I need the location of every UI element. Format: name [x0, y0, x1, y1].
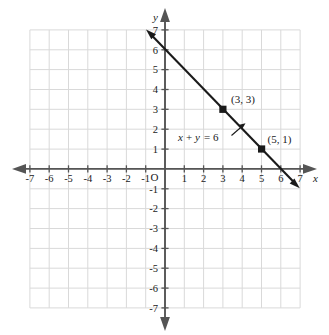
y-tick-label: -4 — [149, 243, 158, 254]
equation-var-y: y — [194, 131, 200, 143]
coordinate-plane-figure: -7 -6 -5 -4 -3 -2 -1 1 2 3 4 5 6 7 7 6 5… — [0, 0, 329, 335]
y-tick-label: -2 — [149, 203, 158, 214]
x-tick-label: 6 — [278, 173, 283, 184]
x-tick-label: 7 — [297, 173, 302, 184]
x-tick-label: -3 — [103, 173, 112, 184]
y-tick-label: 3 — [153, 104, 158, 115]
x-tick-label: -5 — [64, 173, 73, 184]
equation-equals-six: = 6 — [204, 131, 219, 143]
x-tick-label: -2 — [122, 173, 131, 184]
y-tick-label: 4 — [153, 84, 159, 95]
y-tick-label: 2 — [153, 124, 158, 135]
x-axis-left-arrow — [12, 164, 26, 174]
y-axis-label: y — [152, 11, 158, 23]
equation-label: x+y= 6 — [177, 131, 219, 143]
y-axis-bottom-arrow — [160, 317, 170, 331]
y-tick-label: 5 — [153, 64, 158, 75]
point-label-5-1: (5, 1) — [268, 133, 292, 146]
y-axis-top-arrow — [160, 8, 170, 22]
equation-annotation: x+y= 6 — [177, 123, 246, 143]
y-tick-label: -1 — [149, 184, 158, 195]
y-tick-label: -7 — [149, 303, 158, 314]
origin-label: O — [151, 171, 159, 183]
point-marker-5-1 — [258, 145, 265, 152]
x-axis-label: x — [312, 172, 318, 184]
x-tick-label: -6 — [45, 173, 54, 184]
x-tick-label: 5 — [259, 173, 264, 184]
x-tick-label: 1 — [182, 173, 187, 184]
point-marker-3-3 — [219, 106, 226, 113]
y-tick-label: -5 — [149, 263, 158, 274]
x-tick-label: 3 — [220, 173, 225, 184]
x-tick-label: -4 — [83, 173, 92, 184]
y-tick-label: -6 — [149, 283, 158, 294]
x-tick-label: -1 — [141, 173, 150, 184]
point-label-3-3: (3, 3) — [231, 93, 255, 106]
x-tick-label: -7 — [26, 173, 35, 184]
x-tick-label: 2 — [201, 173, 206, 184]
x-tick-label: 4 — [240, 173, 246, 184]
equation-var-x: x — [177, 131, 183, 143]
y-tick-label: 6 — [153, 45, 158, 56]
equation-plus: + — [186, 131, 192, 143]
y-tick-label: -3 — [149, 223, 158, 234]
axis-lines — [12, 8, 317, 331]
y-tick-label: 1 — [153, 144, 158, 155]
graph-svg: -7 -6 -5 -4 -3 -2 -1 1 2 3 4 5 6 7 7 6 5… — [0, 0, 329, 335]
